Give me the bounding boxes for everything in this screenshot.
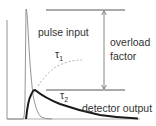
overload-label-line2: factor [110, 50, 137, 62]
overload-double-arrow [102, 11, 107, 89]
overload-diagram: pulse input τ1 overload factor τ2 detect… [0, 0, 156, 126]
tau1-rise-curve [38, 60, 82, 86]
pulse-input-label: pulse input [38, 26, 89, 38]
detector-output-label: detector output [82, 102, 152, 114]
tau1-label: τ1 [55, 48, 63, 62]
overload-label-line1: overload [110, 36, 150, 48]
tau2-label: τ2 [60, 89, 68, 103]
